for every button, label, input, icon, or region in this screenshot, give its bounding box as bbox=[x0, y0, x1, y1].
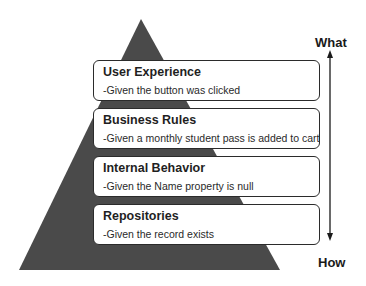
layer-description: -Given a monthly student pass is added t… bbox=[103, 132, 319, 145]
layer-internal-behavior: Internal Behavior -Given the Name proper… bbox=[93, 156, 320, 197]
layer-description: -Given the button was clicked bbox=[103, 84, 319, 97]
layer-description: -Given the record exists bbox=[103, 228, 319, 241]
layer-repositories: Repositories -Given the record exists bbox=[93, 204, 320, 245]
layer-title: Internal Behavior bbox=[103, 161, 319, 176]
layer-title: User Experience bbox=[103, 65, 319, 80]
axis-label-what: What bbox=[315, 35, 347, 50]
layer-description: -Given the Name property is null bbox=[103, 180, 319, 193]
layer-business-rules: Business Rules -Given a monthly student … bbox=[93, 108, 320, 149]
layer-title: Business Rules bbox=[103, 113, 319, 128]
layer-user-experience: User Experience -Given the button was cl… bbox=[93, 60, 320, 101]
layer-title: Repositories bbox=[103, 209, 319, 224]
axis-label-how: How bbox=[318, 255, 345, 270]
